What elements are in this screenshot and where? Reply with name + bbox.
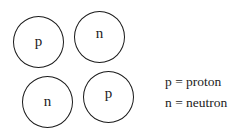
particle-label: p — [105, 85, 113, 102]
particle-label: n — [96, 25, 104, 42]
legend-proton: p = proton — [165, 74, 221, 90]
legend-neutron: n = neutron — [165, 95, 227, 111]
particle-label: p — [35, 33, 43, 50]
neutron-circle: n — [74, 11, 125, 63]
neutron-circle: n — [22, 76, 73, 128]
particle-label: n — [44, 93, 52, 110]
proton-circle: p — [13, 16, 64, 68]
proton-circle: p — [83, 71, 134, 123]
